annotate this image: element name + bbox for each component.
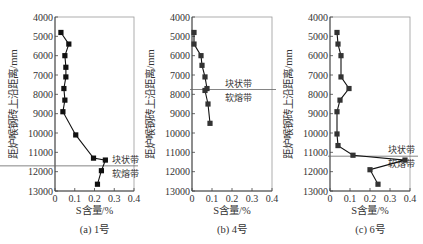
chart-caption: (b) 4号 [217, 224, 247, 236]
x-tick-label: 0.4 [266, 193, 279, 204]
y-tick-label: 10000 [165, 128, 190, 139]
y-tick-label: 12000 [28, 166, 53, 177]
y-tick-label: 9000 [170, 108, 190, 119]
y-axis-title: 距炉喉钢砖上沿距离/mm [282, 49, 294, 158]
band-label-lumpy-zone: 块状带 [225, 78, 252, 89]
x-tick-label: 0.4 [128, 193, 141, 204]
x-tick-label: 0 [328, 193, 333, 204]
square-marker-icon [337, 98, 342, 103]
chart-a: 4000500060007000800090001000011000120001… [0, 0, 141, 244]
square-marker-icon [62, 53, 67, 58]
square-marker-icon [63, 74, 68, 79]
y-tick-label: 9000 [308, 108, 328, 119]
y-tick-label: 11000 [28, 147, 53, 158]
square-marker-icon [191, 41, 196, 46]
x-tick-label: 0.1 [206, 193, 219, 204]
square-marker-icon [95, 182, 100, 187]
square-marker-icon [199, 63, 204, 68]
square-marker-icon [335, 41, 340, 46]
x-tick-label: 0.2 [364, 193, 377, 204]
x-axis-title: S含量/% [76, 204, 114, 216]
y-tick-label: 4000 [33, 12, 53, 23]
y-tick-label: 8000 [308, 89, 328, 100]
y-tick-label: 7000 [308, 70, 328, 81]
data-line [61, 33, 106, 185]
y-tick-label: 8000 [33, 89, 53, 100]
y-tick-label: 8000 [170, 89, 190, 100]
y-tick-label: 5000 [308, 31, 328, 42]
square-marker-icon [367, 167, 372, 172]
square-marker-icon [202, 74, 207, 79]
square-marker-icon [334, 109, 339, 114]
square-marker-icon [103, 157, 108, 162]
chart-caption: (a) 1号 [80, 224, 110, 236]
y-tick-label: 6000 [170, 50, 190, 61]
y-tick-label: 5000 [33, 31, 53, 42]
square-marker-icon [335, 143, 340, 148]
square-marker-icon [202, 88, 207, 93]
square-marker-icon [346, 86, 351, 91]
square-marker-icon [207, 121, 212, 126]
y-tick-label: 4000 [308, 12, 328, 23]
square-marker-icon [205, 101, 210, 106]
y-tick-label: 6000 [308, 50, 328, 61]
square-marker-icon [73, 132, 78, 137]
square-marker-icon [334, 131, 339, 136]
chart-panel-c: 4000500060007000800090001000011000120001… [282, 0, 423, 244]
x-tick-label: 0.1 [344, 193, 357, 204]
y-tick-label: 9000 [33, 108, 53, 119]
square-marker-icon [61, 86, 66, 91]
x-axis-title: S含量/% [351, 204, 389, 216]
x-tick-label: 0 [53, 193, 58, 204]
y-tick-label: 12000 [303, 166, 328, 177]
square-marker-icon [66, 41, 71, 46]
chart-caption: (c) 6号 [355, 224, 385, 236]
x-tick-label: 0.2 [226, 193, 239, 204]
y-tick-label: 10000 [28, 128, 53, 139]
y-tick-label: 5000 [170, 31, 190, 42]
y-tick-label: 7000 [170, 70, 190, 81]
chart-panel-b: 4000500060007000800090001000011000120001… [141, 0, 282, 244]
chart-c: 4000500060007000800090001000011000120001… [282, 0, 423, 244]
x-tick-label: 0.2 [88, 193, 101, 204]
x-tick-label: 0.3 [246, 193, 259, 204]
y-tick-label: 7000 [33, 70, 53, 81]
y-tick-label: 6000 [33, 50, 53, 61]
y-axis-title: 距炉喉钢砖上沿距离/mm [7, 49, 19, 158]
y-tick-label: 11000 [165, 147, 190, 158]
square-marker-icon [191, 30, 196, 35]
x-tick-label: 0.3 [108, 193, 121, 204]
chart-b: 4000500060007000800090001000011000120001… [141, 0, 282, 244]
square-marker-icon [60, 109, 65, 114]
square-marker-icon [402, 157, 407, 162]
y-tick-label: 12000 [165, 166, 190, 177]
x-axis-title: S含量/% [213, 204, 251, 216]
x-tick-label: 0 [190, 193, 195, 204]
square-marker-icon [99, 168, 104, 173]
square-marker-icon [375, 182, 380, 187]
y-axis-title: 距炉喉钢砖上沿距离/mm [144, 49, 156, 158]
band-label-cohesive-zone: 软熔带 [225, 92, 252, 103]
x-tick-label: 0.1 [69, 193, 82, 204]
x-tick-label: 0.3 [384, 193, 397, 204]
band-label-lumpy-zone: 块状带 [112, 154, 139, 165]
square-marker-icon [338, 74, 343, 79]
x-tick-label: 0.4 [404, 193, 417, 204]
chart-panel-a: 4000500060007000800090001000011000120001… [0, 0, 141, 244]
plot-frame [192, 17, 272, 191]
square-marker-icon [63, 65, 68, 70]
square-marker-icon [91, 156, 96, 161]
square-marker-icon [62, 98, 67, 103]
y-tick-label: 4000 [170, 12, 190, 23]
y-tick-label: 10000 [303, 128, 328, 139]
square-marker-icon [198, 53, 203, 58]
y-tick-label: 11000 [303, 147, 328, 158]
y-tick-label: 13000 [165, 186, 190, 197]
square-marker-icon [334, 30, 339, 35]
y-tick-label: 13000 [28, 186, 53, 197]
square-marker-icon [350, 153, 355, 158]
band-label-cohesive-zone: 软熔带 [112, 168, 139, 179]
square-marker-icon [338, 53, 343, 58]
band-label-lumpy-zone: 块状带 [388, 144, 415, 155]
y-tick-label: 13000 [303, 186, 328, 197]
